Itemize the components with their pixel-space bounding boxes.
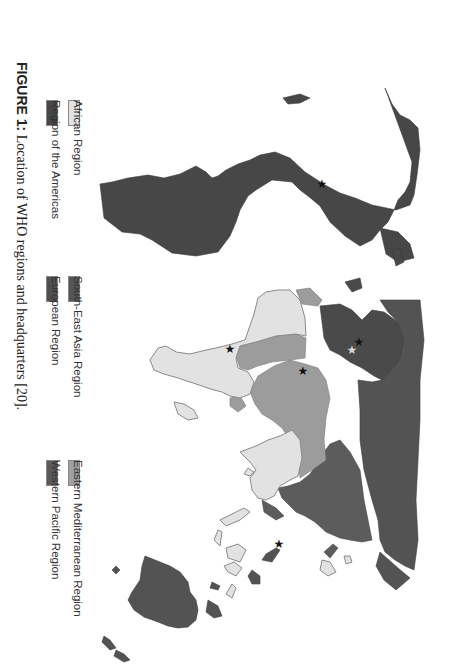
star-icon-searo-office: ★ [274, 537, 285, 551]
legend-label-african: African Region [72, 100, 84, 175]
figure-caption-text: Location of WHO regions and headquarters… [14, 131, 29, 410]
star-icon-emro-office: ★ [298, 364, 309, 378]
star-icon-americas-office: ★ [317, 177, 328, 191]
legend-label-south-east-asia: South-East Asia Region [72, 276, 84, 397]
star-icon-african-office: ★ [225, 342, 236, 356]
legend-label-eastern-mediterranean: Eastern Mediterranean Region [72, 460, 84, 617]
legend-label-european: European Region [50, 276, 62, 366]
legend-label-western-pacific: Western Pacific Region [50, 460, 62, 579]
figure-label: FIGURE 1: [14, 62, 30, 131]
star-icon-europe-office: ★ [347, 343, 358, 357]
figure-caption: FIGURE 1: Location of WHO regions and he… [13, 62, 30, 410]
legend-label-americas: Region of the Americas [50, 100, 62, 219]
region-americas [100, 88, 420, 266]
region-europe [320, 278, 404, 380]
